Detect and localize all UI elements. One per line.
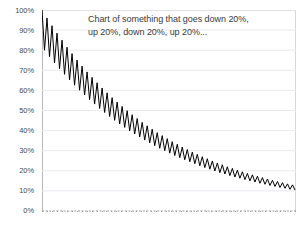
y-tick-label: 20% [2, 167, 34, 175]
y-tick-label: 10% [2, 187, 34, 195]
y-tick-label: 30% [2, 147, 34, 155]
y-tick-label: 60% [2, 87, 34, 95]
chart-title-line-1: Chart of something that goes down 20%, [88, 13, 298, 26]
chart-title-line-2: up 20%, down 20%, up 20%... [88, 26, 298, 39]
y-tick-label: 70% [2, 67, 34, 75]
y-tick-label: 80% [2, 47, 34, 55]
y-tick-label: 40% [2, 127, 34, 135]
y-tick-label: 100% [2, 7, 34, 15]
chart-title: Chart of something that goes down 20%, u… [88, 13, 298, 38]
y-tick-label: 90% [2, 27, 34, 35]
chart-container: 100% 90% 80% 70% 60% 50% 40% 30% 20% 10%… [0, 0, 308, 229]
chart-plot [42, 10, 296, 212]
y-tick-label: 50% [2, 107, 34, 115]
y-tick-label: 0% [2, 207, 34, 215]
